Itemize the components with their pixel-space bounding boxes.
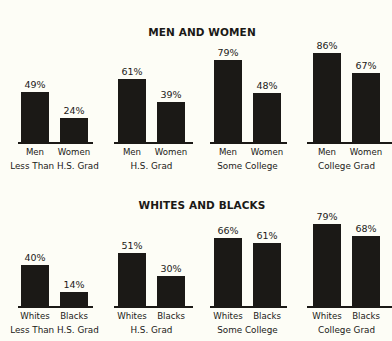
- category-label: College Grad: [287, 325, 392, 335]
- bar-men: [21, 92, 49, 143]
- series-label: Women: [341, 147, 391, 157]
- value-label: 51%: [112, 240, 152, 251]
- series-label: Women: [146, 147, 196, 157]
- bar-men: [214, 60, 242, 143]
- value-label: 67%: [346, 60, 386, 71]
- bar-women: [60, 118, 88, 143]
- series-label: Blacks: [341, 311, 391, 321]
- panel-title-men-women: MEN AND WOMEN: [0, 26, 392, 38]
- bar-whites: [313, 224, 341, 307]
- bar-men: [118, 79, 146, 143]
- value-label: 30%: [151, 263, 191, 274]
- value-label: 66%: [208, 225, 248, 236]
- bar-whites: [118, 253, 146, 307]
- bar-blacks: [253, 243, 281, 307]
- value-label: 39%: [151, 89, 191, 100]
- series-label: Blacks: [49, 311, 99, 321]
- panel-title-whites-blacks: WHITES AND BLACKS: [0, 199, 392, 211]
- bar-whites: [21, 265, 49, 307]
- bar-blacks: [60, 292, 88, 307]
- value-label: 48%: [247, 80, 287, 91]
- bar-blacks: [352, 236, 380, 307]
- bar-women: [157, 102, 185, 143]
- bar-women: [253, 93, 281, 143]
- category-label: College Grad: [287, 161, 392, 171]
- series-label: Women: [49, 147, 99, 157]
- value-label: 14%: [54, 279, 94, 290]
- bar-whites: [214, 238, 242, 307]
- value-label: 68%: [346, 223, 386, 234]
- series-label: Women: [242, 147, 292, 157]
- bar-women: [352, 73, 380, 143]
- value-label: 61%: [247, 230, 287, 241]
- value-label: 79%: [307, 211, 347, 222]
- value-label: 49%: [15, 79, 55, 90]
- value-label: 40%: [15, 252, 55, 263]
- value-label: 61%: [112, 66, 152, 77]
- bar-blacks: [157, 276, 185, 308]
- value-label: 79%: [208, 47, 248, 58]
- bar-men: [313, 53, 341, 143]
- series-label: Blacks: [242, 311, 292, 321]
- value-label: 86%: [307, 40, 347, 51]
- value-label: 24%: [54, 105, 94, 116]
- series-label: Blacks: [146, 311, 196, 321]
